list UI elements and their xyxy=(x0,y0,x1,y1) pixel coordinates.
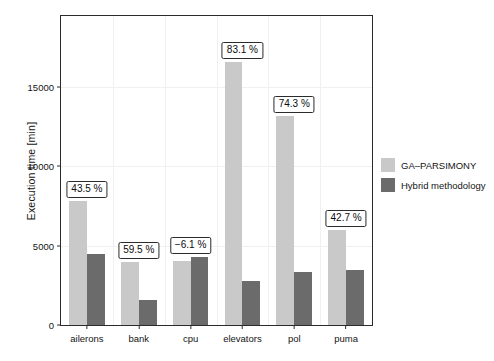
y-axis-tick: 0 xyxy=(49,320,61,331)
x-axis-tick-label: puma xyxy=(334,333,358,344)
x-axis-tick-mark xyxy=(294,325,295,329)
x-axis-tick-label: bank xyxy=(128,333,149,344)
bar-elevators-ga-parsimony xyxy=(225,62,243,325)
x-axis-tick-mark xyxy=(242,325,243,329)
legend-label: Hybrid methodology xyxy=(401,180,486,191)
y-axis-tick-mark xyxy=(57,86,61,87)
chart-legend: GA–PARSIMONYHybrid methodology xyxy=(381,158,486,192)
x-axis-tick-label: elevators xyxy=(223,333,262,344)
x-axis-tick-elevators: elevators xyxy=(223,325,262,344)
legend-swatch xyxy=(381,178,395,192)
x-axis-tick-mark xyxy=(138,325,139,329)
percent-annotation-cpu: −6.1 % xyxy=(170,237,211,254)
x-axis-tick-mark xyxy=(86,325,87,329)
y-axis-tick-label: 15000 xyxy=(28,81,57,92)
y-axis-tick: 15000 xyxy=(28,81,61,92)
percent-annotation-puma: 42.7 % xyxy=(326,210,367,227)
bar-bank-hybrid-methodology xyxy=(139,300,157,325)
bar-chart-figure: Execution time [min] 050001000015000aile… xyxy=(0,0,494,361)
gridline-vertical xyxy=(320,16,321,325)
y-axis-tick-label: 5000 xyxy=(33,240,57,251)
bar-pol-hybrid-methodology xyxy=(294,272,312,325)
bar-puma-hybrid-methodology xyxy=(346,270,364,325)
bar-bank-ga-parsimony xyxy=(121,262,139,325)
bar-ailerons-ga-parsimony xyxy=(69,201,87,325)
gridline-vertical xyxy=(165,16,166,325)
legend-entry-ga-parsimony: GA–PARSIMONY xyxy=(381,158,486,172)
bar-cpu-hybrid-methodology xyxy=(191,257,209,325)
bar-elevators-hybrid-methodology xyxy=(242,281,260,325)
x-axis-tick-cpu: cpu xyxy=(183,325,198,344)
y-axis-tick-label: 0 xyxy=(49,320,57,331)
y-axis-tick-label: 10000 xyxy=(28,161,57,172)
y-axis-tick: 10000 xyxy=(28,161,61,172)
bar-cpu-ga-parsimony xyxy=(173,261,191,325)
x-axis-tick-puma: puma xyxy=(334,325,358,344)
bar-pol-ga-parsimony xyxy=(276,116,294,325)
percent-annotation-bank: 59.5 % xyxy=(118,242,159,259)
plot-area: 050001000015000ailerons43.5 %bank59.5 %c… xyxy=(60,15,373,326)
legend-label: GA–PARSIMONY xyxy=(401,160,476,171)
bar-ailerons-hybrid-methodology xyxy=(87,254,105,325)
y-axis-tick-mark xyxy=(57,166,61,167)
x-axis-tick-bank: bank xyxy=(128,325,149,344)
x-axis-tick-label: ailerons xyxy=(70,333,103,344)
gridline-vertical xyxy=(268,16,269,325)
legend-swatch xyxy=(381,158,395,172)
plot-inner: 050001000015000ailerons43.5 %bank59.5 %c… xyxy=(61,16,372,325)
x-axis-tick-mark xyxy=(190,325,191,329)
x-axis-tick-label: cpu xyxy=(183,333,198,344)
bar-puma-ga-parsimony xyxy=(328,230,346,325)
y-axis-tick: 5000 xyxy=(33,240,61,251)
y-axis-tick-mark xyxy=(57,325,61,326)
percent-annotation-ailerons: 43.5 % xyxy=(66,181,107,198)
percent-annotation-pol: 74.3 % xyxy=(274,96,315,113)
gridline-vertical xyxy=(113,16,114,325)
legend-entry-hybrid-methodology: Hybrid methodology xyxy=(381,178,486,192)
x-axis-tick-label: pol xyxy=(288,333,301,344)
x-axis-tick-mark xyxy=(346,325,347,329)
x-axis-tick-ailerons: ailerons xyxy=(70,325,103,344)
gridline-vertical xyxy=(217,16,218,325)
x-axis-tick-pol: pol xyxy=(288,325,301,344)
y-axis-tick-mark xyxy=(57,245,61,246)
percent-annotation-elevators: 83.1 % xyxy=(222,42,263,59)
